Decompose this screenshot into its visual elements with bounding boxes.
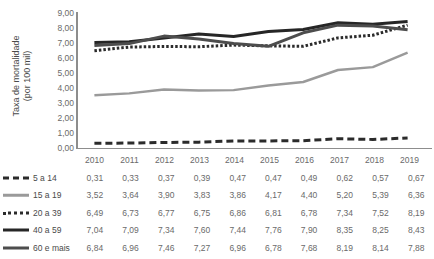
- table-cell: 7,34: [148, 225, 184, 235]
- table-cell: 7,04: [77, 225, 113, 235]
- y-tick-label: 7,00: [44, 39, 74, 48]
- legend-item-40-a-59[interactable]: 40 a 59: [0, 225, 77, 235]
- y-axis-title-line1: Taxa de mortalidade: [11, 35, 21, 116]
- table-cell: 7,90: [291, 225, 327, 235]
- table-cell: 3,86: [220, 190, 256, 200]
- legend-item-5-a-14[interactable]: 5 a 14: [0, 173, 77, 183]
- y-tick-label: 6,00: [44, 54, 74, 63]
- table-cell: 7,34: [327, 208, 363, 218]
- legend-line-swatch-icon: [3, 192, 29, 199]
- table-row: 5 a 140,310,330,370,390,470,470,490,620,…: [0, 169, 434, 187]
- table-cell: 7,09: [113, 225, 149, 235]
- table-value-group: 3,523,643,903,833,864,174,405,205,396,36: [77, 190, 434, 200]
- table-value-group: 7,047,097,347,607,447,767,908,358,258,43: [77, 225, 434, 235]
- y-tick-label: 3,00: [44, 99, 74, 108]
- table-cell: 6,81: [256, 208, 292, 218]
- table-value-group: 6,496,736,776,756,866,816,787,347,528,19: [77, 208, 434, 218]
- table-cell: 6,86: [220, 208, 256, 218]
- series-line-15-a-19: [94, 53, 407, 96]
- y-tick-label: 9,00: [44, 9, 74, 18]
- plot-area: [77, 13, 425, 148]
- table-cell: 7,44: [220, 225, 256, 235]
- legend-item-60-e-mais[interactable]: 60 e mais: [0, 243, 77, 253]
- table-cell: 7,60: [184, 225, 220, 235]
- table-cell: 0,33: [113, 173, 149, 183]
- legend-line-swatch-icon: [3, 244, 29, 251]
- legend-data-table: 5 a 140,310,330,370,390,470,470,490,620,…: [0, 169, 434, 259]
- table-cell: 0,62: [327, 173, 363, 183]
- legend-line-swatch-icon: [3, 227, 29, 234]
- series-line-20-a-39: [94, 25, 407, 51]
- y-axis-title-line2: (por 100 mil): [22, 35, 33, 116]
- table-value-group: 0,310,330,370,390,470,470,490,620,570,67: [77, 173, 434, 183]
- table-cell: 8,35: [327, 225, 363, 235]
- table-cell: 6,49: [77, 208, 113, 218]
- table-cell: 7,27: [184, 243, 220, 253]
- table-cell: 3,64: [113, 190, 149, 200]
- x-tick-label: 2014: [217, 152, 252, 168]
- y-tick-label: 2,00: [44, 114, 74, 123]
- table-cell: 5,20: [327, 190, 363, 200]
- x-tick-label: 2018: [357, 152, 392, 168]
- table-row: 15 a 193,523,643,903,833,864,174,405,205…: [0, 187, 434, 205]
- table-cell: 6,75: [184, 208, 220, 218]
- x-tick-label: 2013: [182, 152, 217, 168]
- mortality-rate-line-chart: Taxa de mortalidade (por 100 mil) 0,001,…: [0, 0, 434, 259]
- table-cell: 4,40: [291, 190, 327, 200]
- legend-line-swatch-icon: [3, 209, 29, 216]
- table-cell: 8,14: [363, 243, 399, 253]
- table-cell: 3,90: [148, 190, 184, 200]
- y-axis-tick-labels: 0,001,002,003,004,005,006,007,008,009,00: [44, 8, 74, 154]
- y-tick-label: 0,00: [44, 144, 74, 153]
- x-tick-label: 2011: [112, 152, 147, 168]
- table-cell: 6,77: [148, 208, 184, 218]
- table-cell: 0,47: [220, 173, 256, 183]
- table-cell: 0,39: [184, 173, 220, 183]
- table-value-group: 6,846,967,467,276,966,787,688,198,147,88: [77, 243, 434, 253]
- y-tick-label: 8,00: [44, 24, 74, 33]
- table-cell: 0,47: [256, 173, 292, 183]
- y-tick-label: 5,00: [44, 69, 74, 78]
- table-cell: 0,67: [398, 173, 434, 183]
- legend-label: 40 a 59: [33, 225, 61, 235]
- legend-label: 20 a 39: [33, 208, 61, 218]
- table-cell: 4,17: [256, 190, 292, 200]
- x-tick-label: 2010: [77, 152, 112, 168]
- x-tick-label: 2012: [147, 152, 182, 168]
- table-row: 20 a 396,496,736,776,756,866,816,787,347…: [0, 204, 434, 222]
- series-lines: [77, 13, 425, 148]
- x-tick-label: 2019: [392, 152, 427, 168]
- table-cell: 0,57: [363, 173, 399, 183]
- x-tick-label: 2015: [252, 152, 287, 168]
- legend-line-swatch-icon: [3, 174, 29, 181]
- table-row: 40 a 597,047,097,347,607,447,767,908,358…: [0, 222, 434, 240]
- table-cell: 0,37: [148, 173, 184, 183]
- table-cell: 5,39: [363, 190, 399, 200]
- x-tick-label: 2017: [322, 152, 357, 168]
- x-axis-year-header: 2010201120122013201420152016201720182019: [77, 152, 427, 168]
- table-cell: 7,52: [363, 208, 399, 218]
- table-cell: 3,83: [184, 190, 220, 200]
- table-row: 60 e mais6,846,967,467,276,966,787,688,1…: [0, 239, 434, 257]
- table-cell: 7,46: [148, 243, 184, 253]
- y-axis-title: Taxa de mortalidade (por 100 mil): [0, 0, 44, 152]
- legend-label: 60 e mais: [33, 243, 70, 253]
- table-cell: 6,36: [398, 190, 434, 200]
- table-cell: 8,19: [398, 208, 434, 218]
- table-cell: 6,78: [256, 243, 292, 253]
- table-cell: 6,96: [220, 243, 256, 253]
- table-cell: 3,52: [77, 190, 113, 200]
- y-tick-label: 4,00: [44, 84, 74, 93]
- table-cell: 7,88: [398, 243, 434, 253]
- table-cell: 0,31: [77, 173, 113, 183]
- table-cell: 6,78: [291, 208, 327, 218]
- table-cell: 7,76: [256, 225, 292, 235]
- table-cell: 8,43: [398, 225, 434, 235]
- series-line-5-a-14: [94, 138, 407, 143]
- legend-item-20-a-39[interactable]: 20 a 39: [0, 208, 77, 218]
- legend-label: 15 a 19: [33, 190, 61, 200]
- table-cell: 6,96: [113, 243, 149, 253]
- legend-item-15-a-19[interactable]: 15 a 19: [0, 190, 77, 200]
- table-cell: 7,68: [291, 243, 327, 253]
- x-tick-label: 2016: [287, 152, 322, 168]
